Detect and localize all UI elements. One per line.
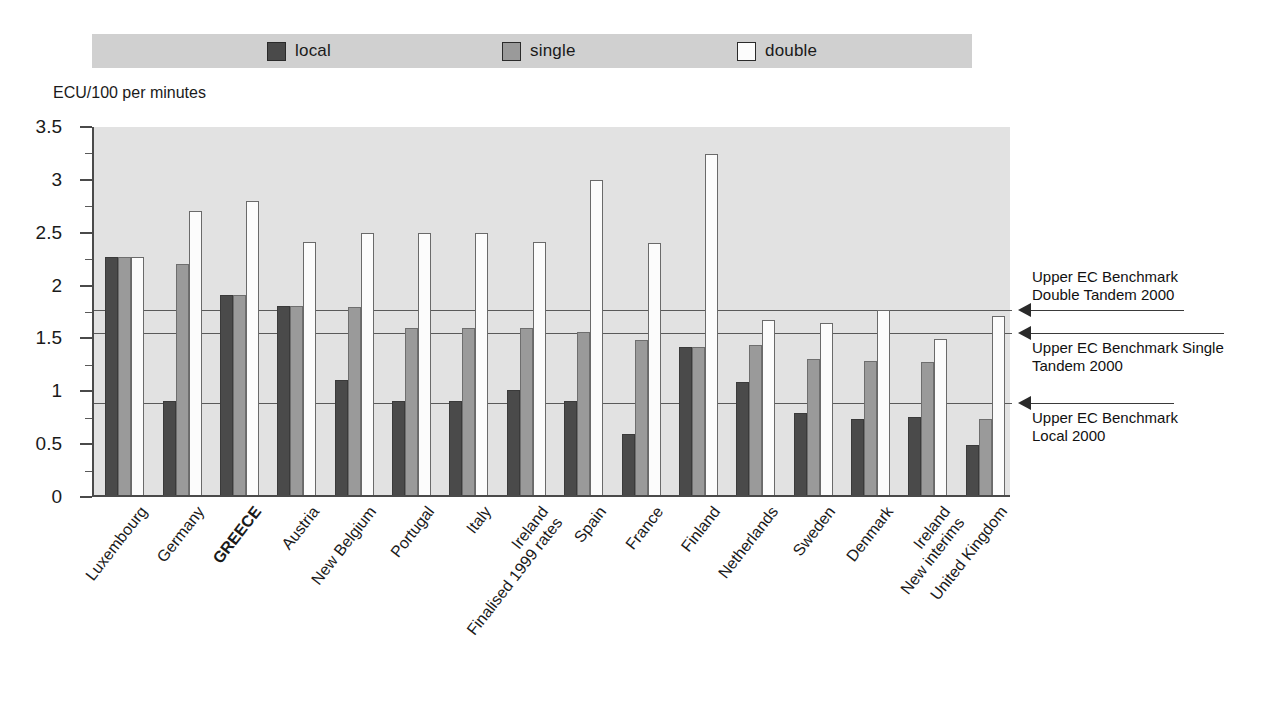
y-tick-minor <box>85 471 92 472</box>
bar-double <box>533 242 546 495</box>
bar-group <box>163 127 202 495</box>
y-tick-minor <box>85 312 92 313</box>
bar-double <box>418 233 431 495</box>
bar-single <box>979 419 992 495</box>
bar-local <box>105 257 118 495</box>
bar-single <box>692 347 705 495</box>
annotation-leader-line <box>1028 403 1174 404</box>
y-tick-major <box>80 390 92 392</box>
bar-group <box>679 127 718 495</box>
annotation-leader-line <box>1028 310 1184 311</box>
bar-local <box>163 401 176 495</box>
bar-single <box>405 328 418 495</box>
y-tick-label: 1.5 <box>36 327 62 349</box>
y-tick-minor <box>85 259 92 260</box>
y-tick-minor <box>85 418 92 419</box>
y-axis-title: ECU/100 per minutes <box>53 84 206 102</box>
bar-single <box>233 295 246 495</box>
y-axis: 00.511.522.533.5 <box>0 127 92 497</box>
legend-swatch-double <box>737 42 756 61</box>
bar-group <box>908 127 947 495</box>
bar-local <box>851 419 864 495</box>
y-tick-major <box>80 126 92 128</box>
legend-label-local: local <box>295 41 331 61</box>
annotation-arrow-icon <box>1018 396 1031 410</box>
bar-double <box>361 233 374 495</box>
bars-layer <box>94 127 1010 495</box>
bar-local <box>507 390 520 495</box>
chart-page: local single double ECU/100 per minutes … <box>0 0 1288 712</box>
bar-double <box>877 310 890 495</box>
y-tick-label: 3 <box>51 169 62 191</box>
x-axis-label: France <box>622 503 667 553</box>
bar-group <box>220 127 259 495</box>
bar-single <box>118 257 131 495</box>
bar-single <box>864 361 877 495</box>
annotation-label-double-tandem: Upper EC Benchmark Double Tandem 2000 <box>1032 268 1282 305</box>
bar-local <box>335 380 348 495</box>
x-axis-label: Italy <box>463 503 495 537</box>
y-tick-major <box>80 337 92 339</box>
bar-double <box>762 320 775 495</box>
bar-group <box>564 127 603 495</box>
bar-group <box>851 127 890 495</box>
bar-double <box>590 180 603 495</box>
legend-swatch-single <box>502 42 521 61</box>
legend-swatch-local <box>267 42 286 61</box>
x-axis-label: Finland <box>678 503 724 555</box>
bar-single <box>577 332 590 495</box>
plot-area <box>92 127 1010 497</box>
bar-local <box>794 413 807 495</box>
y-tick-minor <box>85 153 92 154</box>
x-axis-label: Spain <box>570 503 609 546</box>
bar-double <box>705 154 718 495</box>
y-tick-minor <box>85 365 92 366</box>
bar-group <box>105 127 144 495</box>
x-axis-label: Austria <box>278 503 323 553</box>
bar-double <box>303 242 316 495</box>
bar-local <box>679 347 692 495</box>
x-axis-labels: LuxembourgGermanyGREECEAustriaNew Belgiu… <box>0 497 1288 677</box>
bar-group <box>392 127 431 495</box>
bar-group <box>966 127 1005 495</box>
annotation-label-single-tandem: Upper EC Benchmark Single Tandem 2000 <box>1032 339 1282 376</box>
bar-double <box>189 211 202 495</box>
bar-single <box>462 328 475 495</box>
bar-group <box>622 127 661 495</box>
legend-label-double: double <box>765 41 817 61</box>
y-tick-major <box>80 285 92 287</box>
bar-group <box>507 127 546 495</box>
bar-local <box>622 434 635 495</box>
x-axis-label: Luxembourg <box>82 503 151 584</box>
bar-local <box>564 401 577 495</box>
bar-single <box>520 328 533 495</box>
y-tick-minor <box>85 206 92 207</box>
y-tick-label: 2 <box>51 275 62 297</box>
x-axis-label: Portugal <box>387 503 438 561</box>
x-axis-label: GREECE <box>210 503 266 567</box>
chart-legend: local single double <box>92 34 972 68</box>
bar-double <box>246 201 259 495</box>
bar-single <box>749 345 762 495</box>
benchmark-annotations: Upper EC Benchmark Double Tandem 2000Upp… <box>1010 127 1288 497</box>
y-tick-label: 1 <box>51 380 62 402</box>
bar-group <box>794 127 833 495</box>
annotation-arrow-icon <box>1018 303 1031 317</box>
y-tick-major <box>80 443 92 445</box>
bar-group <box>736 127 775 495</box>
x-axis-label: Denmark <box>843 503 897 565</box>
bar-local <box>449 401 462 495</box>
y-tick-label: 2.5 <box>36 222 62 244</box>
bar-single <box>635 340 648 495</box>
legend-entry-single: single <box>502 41 576 61</box>
legend-entry-double: double <box>737 41 817 61</box>
legend-entry-local: local <box>267 41 331 61</box>
bar-group <box>449 127 488 495</box>
x-axis-label: Germany <box>154 503 209 566</box>
bar-group <box>335 127 374 495</box>
bar-double <box>648 243 661 495</box>
bar-single <box>176 264 189 496</box>
bar-local <box>392 401 405 495</box>
bar-local <box>736 382 749 495</box>
bar-group <box>277 127 316 495</box>
